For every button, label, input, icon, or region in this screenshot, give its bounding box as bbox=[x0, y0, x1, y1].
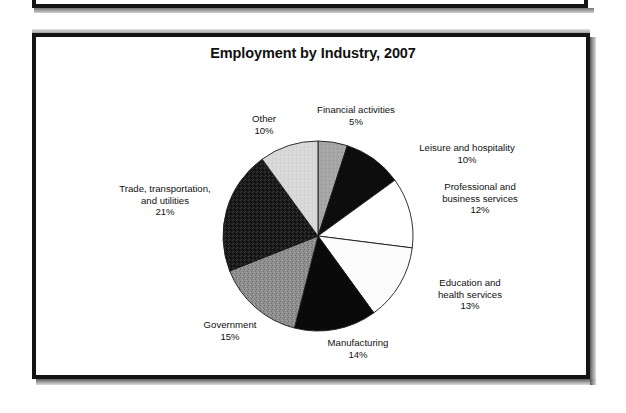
pie-label-professional-and-business-services: Professional and business services 12% bbox=[420, 181, 540, 216]
figure-frame-bottom-shadow bbox=[36, 379, 596, 385]
pie-label-leisure-and-hospitality-name: Leisure and hospitality bbox=[387, 142, 547, 154]
pie-label-government-value: 15% bbox=[186, 331, 274, 343]
pie-label-manufacturing: Manufacturing 14% bbox=[303, 337, 413, 360]
pie-label-manufacturing-value: 14% bbox=[303, 349, 413, 361]
pie-label-trade-transportation-and-utilities: Trade, transportation, and utilities 21% bbox=[103, 183, 227, 218]
pie-label-other-name: Other bbox=[238, 113, 290, 125]
pie-label-leisure-and-hospitality-value: 10% bbox=[387, 154, 547, 166]
chart-title: Employment by Industry, 2007 bbox=[0, 45, 626, 61]
pie-label-other: Other 10% bbox=[238, 113, 290, 136]
previous-figure-box-shadow bbox=[34, 8, 594, 13]
pie-label-financial-activities-value: 5% bbox=[296, 116, 416, 128]
pie-label-trade-line2: and utilities bbox=[103, 195, 227, 207]
pie-label-education-value: 13% bbox=[418, 300, 522, 312]
pie-label-financial-activities-name: Financial activities bbox=[296, 104, 416, 116]
figure-frame-right-shadow bbox=[590, 37, 596, 385]
pie-label-education-and-health-services: Education and health services 13% bbox=[418, 277, 522, 312]
pie-label-manufacturing-name: Manufacturing bbox=[303, 337, 413, 349]
pie-label-professional-value: 12% bbox=[420, 204, 540, 216]
pie-label-professional-line2: business services bbox=[420, 193, 540, 205]
pie-label-leisure-and-hospitality: Leisure and hospitality 10% bbox=[387, 142, 547, 165]
pie-label-government: Government 15% bbox=[186, 319, 274, 342]
pie-label-professional-line1: Professional and bbox=[420, 181, 540, 193]
pie-label-education-line1: Education and bbox=[418, 277, 522, 289]
pie-label-trade-line1: Trade, transportation, bbox=[103, 183, 227, 195]
pie-label-trade-value: 21% bbox=[103, 206, 227, 218]
pie-label-government-name: Government bbox=[186, 319, 274, 331]
pie-label-education-line2: health services bbox=[418, 289, 522, 301]
previous-figure-box-partial bbox=[32, 0, 588, 8]
pie-label-other-value: 10% bbox=[238, 125, 290, 137]
pie-label-financial-activities: Financial activities 5% bbox=[296, 104, 416, 127]
